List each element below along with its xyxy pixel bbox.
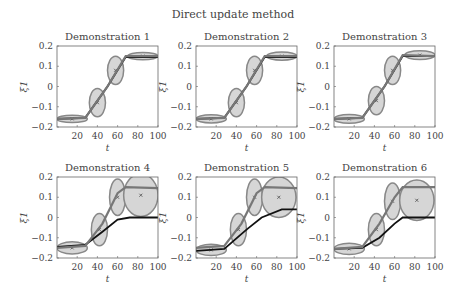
x-tick-label: 100 xyxy=(149,131,166,141)
subplot-title: Demonstration 1 xyxy=(65,31,150,42)
x-tick-label: 80 xyxy=(409,131,421,141)
y-tick-label: −0.2 xyxy=(170,253,192,263)
subplot-6: Demonstration 6204060801000.20.10−0.1−0.… xyxy=(295,162,444,284)
y-tick-label: −0.1 xyxy=(170,102,192,112)
subplot-title: Demonstration 5 xyxy=(204,162,289,173)
figure: Direct update method Demonstration 12040… xyxy=(0,0,466,296)
subplot-4: Demonstration 4204060801000.20.10−0.1−0.… xyxy=(18,162,167,284)
y-tick-label: 0.2 xyxy=(316,172,330,182)
x-tick-label: 20 xyxy=(348,262,360,272)
x-tick-label: 100 xyxy=(149,262,166,272)
subplot-title: Demonstration 4 xyxy=(65,162,150,173)
x-tick-label: 60 xyxy=(251,131,263,141)
y-tick-label: −0.2 xyxy=(308,122,330,132)
x-axis-label: t xyxy=(106,143,110,153)
x-tick-label: 20 xyxy=(348,131,360,141)
x-tick-label: 20 xyxy=(71,131,83,141)
subplot-3: Demonstration 3204060801000.20.10−0.1−0.… xyxy=(295,31,444,153)
y-tick-label: 0 xyxy=(186,213,192,223)
y-tick-label: −0.1 xyxy=(31,233,53,243)
x-axis-label: t xyxy=(383,143,387,153)
subplot-5: Demonstration 5204060801000.20.10−0.1−0.… xyxy=(157,162,306,284)
subplot-title: Demonstration 2 xyxy=(204,31,289,42)
x-tick-label: 100 xyxy=(426,131,443,141)
x-tick-label: 80 xyxy=(132,262,144,272)
x-axis-label: t xyxy=(383,274,387,284)
x-tick-label: 80 xyxy=(409,262,421,272)
y-tick-label: 0.1 xyxy=(316,61,330,71)
x-tick-label: 80 xyxy=(271,131,283,141)
x-tick-label: 100 xyxy=(426,262,443,272)
x-tick-label: 60 xyxy=(389,262,401,272)
x-axis-label: t xyxy=(245,143,249,153)
y-axis-label: ξ1 xyxy=(295,81,306,93)
x-tick-label: 80 xyxy=(132,131,144,141)
y-tick-label: −0.1 xyxy=(31,102,53,112)
x-tick-label: 40 xyxy=(231,262,243,272)
x-tick-label: 60 xyxy=(112,262,124,272)
x-tick-label: 40 xyxy=(92,131,104,141)
figure-suptitle: Direct update method xyxy=(172,8,294,21)
x-tick-label: 20 xyxy=(210,262,222,272)
x-tick-label: 60 xyxy=(389,131,401,141)
y-tick-label: 0.1 xyxy=(178,61,192,71)
y-axis-label: ξ1 xyxy=(18,212,29,224)
x-tick-label: 80 xyxy=(271,262,283,272)
x-tick-label: 60 xyxy=(251,262,263,272)
y-tick-label: 0 xyxy=(47,82,53,92)
y-tick-label: 0.2 xyxy=(39,172,53,182)
y-tick-label: 0.2 xyxy=(178,172,192,182)
y-tick-label: −0.2 xyxy=(308,253,330,263)
y-tick-label: −0.2 xyxy=(31,253,53,263)
y-tick-label: 0.1 xyxy=(39,61,53,71)
y-tick-label: 0 xyxy=(324,82,330,92)
y-axis-label: ξ1 xyxy=(295,212,306,224)
y-tick-label: 0.1 xyxy=(39,192,53,202)
y-tick-label: 0 xyxy=(186,82,192,92)
x-tick-label: 40 xyxy=(231,131,243,141)
y-tick-label: 0.2 xyxy=(39,41,53,51)
y-axis-label: ξ1 xyxy=(18,81,29,93)
y-tick-label: −0.1 xyxy=(170,233,192,243)
subplot-1: Demonstration 1204060801000.20.10−0.1−0.… xyxy=(18,31,167,153)
y-axis-label: ξ1 xyxy=(157,212,168,224)
x-tick-label: 60 xyxy=(112,131,124,141)
x-tick-label: 100 xyxy=(288,262,305,272)
y-tick-label: −0.2 xyxy=(31,122,53,132)
x-tick-label: 40 xyxy=(369,262,381,272)
y-tick-label: −0.1 xyxy=(308,233,330,243)
x-tick-label: 20 xyxy=(210,131,222,141)
y-tick-label: −0.1 xyxy=(308,102,330,112)
x-tick-label: 20 xyxy=(71,262,83,272)
y-axis-label: ξ1 xyxy=(157,81,168,93)
y-tick-label: −0.2 xyxy=(170,122,192,132)
subplot-2: Demonstration 2204060801000.20.10−0.1−0.… xyxy=(157,31,306,153)
y-tick-label: 0.1 xyxy=(178,192,192,202)
y-tick-label: 0.2 xyxy=(178,41,192,51)
x-axis-label: t xyxy=(245,274,249,284)
x-axis-label: t xyxy=(106,274,110,284)
x-tick-label: 100 xyxy=(288,131,305,141)
x-tick-label: 40 xyxy=(92,262,104,272)
y-tick-label: 0 xyxy=(47,213,53,223)
y-tick-label: 0.2 xyxy=(316,41,330,51)
subplot-title: Demonstration 6 xyxy=(342,162,427,173)
x-tick-label: 40 xyxy=(369,131,381,141)
y-tick-label: 0.1 xyxy=(316,192,330,202)
y-tick-label: 0 xyxy=(324,213,330,223)
subplot-title: Demonstration 3 xyxy=(342,31,427,42)
